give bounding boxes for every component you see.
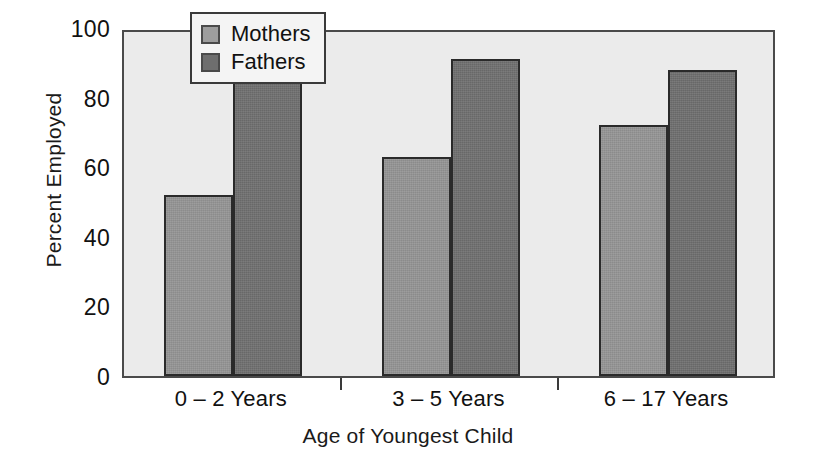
legend-item-mothers: Mothers	[201, 20, 310, 48]
bar-mothers-group-3	[599, 125, 668, 376]
x-category-label: 0 – 2 Years	[122, 386, 340, 412]
y-tick-label: 0	[48, 366, 110, 389]
y-tick-label: 40	[48, 227, 110, 250]
legend-label-mothers: Mothers	[231, 23, 310, 45]
x-category-label: 3 – 5 Years	[340, 386, 558, 412]
bar-fathers-group-3	[668, 70, 737, 376]
legend-label-fathers: Fathers	[231, 51, 306, 73]
y-tick-label: 100	[48, 18, 110, 41]
y-tick-label: 80	[48, 88, 110, 111]
bar-fathers-group-1	[233, 59, 302, 376]
bar-mothers-group-2	[382, 157, 451, 376]
bar-mothers-group-1	[164, 195, 233, 376]
y-tick-label: 60	[48, 157, 110, 180]
x-category-label: 6 – 17 Years	[557, 386, 775, 412]
y-tick-label: 20	[48, 296, 110, 319]
legend-swatch-mothers-icon	[201, 25, 220, 44]
bar-chart: Percent Employed 020406080100 Mothers Fa…	[0, 0, 816, 468]
legend-swatch-fathers-icon	[201, 53, 220, 72]
bar-fathers-group-2	[451, 59, 520, 376]
x-axis-title: Age of Youngest Child	[0, 424, 816, 448]
legend-item-fathers: Fathers	[201, 48, 310, 76]
chart-legend: Mothers Fathers	[190, 12, 326, 84]
